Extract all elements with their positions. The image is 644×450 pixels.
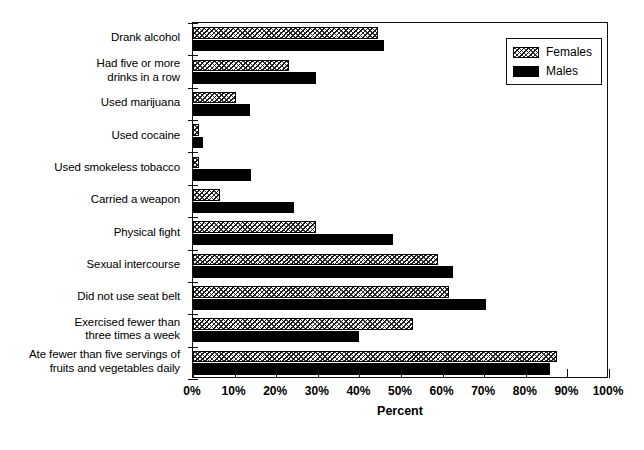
legend-label-males: Males [546, 64, 578, 78]
x-axis-tick-label: 40% [336, 384, 380, 398]
x-axis-tick-label: 30% [295, 384, 339, 398]
y-axis-tick [188, 217, 198, 218]
x-axis-tick [443, 369, 444, 378]
category-label: Used marijuana [101, 96, 180, 110]
bar-female [193, 27, 378, 39]
category-label: Did not use seat belt [77, 290, 180, 304]
hatched-swatch-icon [513, 47, 539, 58]
y-axis-tick [188, 282, 198, 283]
category-label: Sexual intercourse [87, 258, 180, 272]
category-label: Used cocaine [112, 129, 180, 143]
bar-female [193, 351, 557, 363]
bar-male [193, 169, 251, 181]
category-label: Used smokeless tobacco [54, 161, 180, 175]
bar-male [193, 266, 453, 278]
bar-female [193, 221, 316, 233]
x-axis-tick [193, 369, 194, 378]
bar-female [193, 124, 199, 136]
y-axis-tick [188, 185, 198, 186]
bar-male [193, 234, 393, 246]
x-axis-title: Percent [192, 404, 608, 418]
bar-female [193, 318, 413, 330]
x-axis-tick [567, 369, 568, 378]
legend-entry-males: Males [513, 63, 592, 79]
bar-male [193, 299, 486, 311]
bar-male [193, 72, 316, 84]
bar-male [193, 363, 550, 375]
x-axis-tick [484, 369, 485, 378]
x-axis-tick-label: 80% [503, 384, 547, 398]
bar-female [193, 286, 449, 298]
y-axis-tick [188, 347, 198, 348]
solid-black-swatch-icon [513, 66, 539, 77]
y-axis-tick [188, 250, 198, 251]
x-axis-tick-label: 90% [544, 384, 588, 398]
category-label: Had five or more drinks in a row [97, 57, 180, 84]
legend-label-females: Females [546, 45, 592, 59]
x-axis-tick-label: 20% [253, 384, 297, 398]
bar-female [193, 157, 199, 169]
x-axis-tick [235, 369, 236, 378]
x-axis-tick [359, 369, 360, 378]
x-axis-tick-label: 50% [378, 384, 422, 398]
bar-male [193, 202, 294, 214]
bar-chart: Drank alcoholHad five or more drinks in … [0, 0, 644, 450]
legend-entry-females: Females [513, 44, 592, 60]
x-axis-tick-label: 10% [212, 384, 256, 398]
x-axis-tick-label: 60% [420, 384, 464, 398]
x-axis-tick-label: 0% [170, 384, 214, 398]
category-label: Physical fight [114, 226, 180, 240]
y-axis-tick [188, 120, 198, 121]
bar-male [193, 104, 250, 116]
y-axis-tick [188, 152, 198, 153]
y-axis-tick [188, 314, 198, 315]
bar-female [193, 189, 220, 201]
x-axis-tick [318, 369, 319, 378]
bar-female [193, 254, 438, 266]
x-axis-tick-label: 100% [586, 384, 630, 398]
x-axis-tick [401, 369, 402, 378]
category-label: Carried a weapon [91, 193, 180, 207]
category-label: Ate fewer than five servings of fruits a… [29, 348, 180, 375]
bar-male [193, 331, 359, 343]
bar-male [193, 137, 203, 149]
category-axis-labels: Drank alcoholHad five or more drinks in … [0, 22, 186, 378]
bar-male [193, 40, 384, 52]
y-axis-tick [188, 88, 198, 89]
category-label: Drank alcohol [111, 31, 180, 45]
bar-female [193, 60, 289, 72]
bar-female [193, 92, 236, 104]
x-axis-tick-label: 70% [461, 384, 505, 398]
category-label: Exercised fewer than three times a week [75, 316, 180, 343]
x-axis-tick [609, 369, 610, 378]
chart-legend: Females Males [506, 38, 602, 85]
x-axis-tick [276, 369, 277, 378]
y-axis-tick [188, 23, 198, 24]
y-axis-tick [188, 379, 198, 380]
x-axis-tick [526, 369, 527, 378]
y-axis-tick [188, 55, 198, 56]
